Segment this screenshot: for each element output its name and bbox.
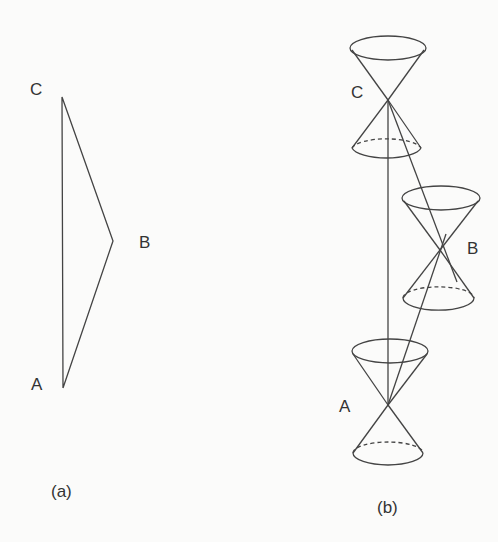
light-cone-a xyxy=(352,339,428,465)
label-c: C xyxy=(351,83,363,102)
triangle-abc xyxy=(62,97,113,388)
panel-a: C B A (a) xyxy=(30,80,150,501)
caption-a: (a) xyxy=(51,482,72,501)
worldline-cb xyxy=(388,100,457,282)
worldline-ab xyxy=(388,234,446,405)
label-b: B xyxy=(139,233,150,252)
label-c: C xyxy=(30,80,42,99)
label-a: A xyxy=(31,375,43,394)
label-a: A xyxy=(339,397,351,416)
caption-b: (b) xyxy=(377,498,398,517)
panel-b: C B A (b) xyxy=(339,36,480,517)
label-b: B xyxy=(467,239,478,258)
figure: C B A (a) xyxy=(0,0,498,542)
